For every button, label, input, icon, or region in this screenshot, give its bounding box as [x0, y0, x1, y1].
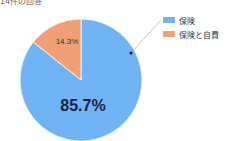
legend-label: 保険と自費: [179, 29, 219, 40]
legend-item-hoken[interactable]: 保険: [163, 13, 219, 27]
legend: 保険 保険と自費: [163, 13, 219, 41]
leader-line: [131, 20, 161, 53]
slice-label-hoken-jihi: 14.3%: [56, 37, 79, 46]
legend-swatch-orange: [163, 31, 175, 37]
legend-label: 保険: [179, 15, 195, 26]
legend-swatch-blue: [163, 17, 175, 23]
leader-dot: [130, 52, 133, 55]
legend-item-hoken-jihi[interactable]: 保険と自費: [163, 27, 219, 41]
slice-label-hoken: 85.7%: [60, 97, 105, 114]
